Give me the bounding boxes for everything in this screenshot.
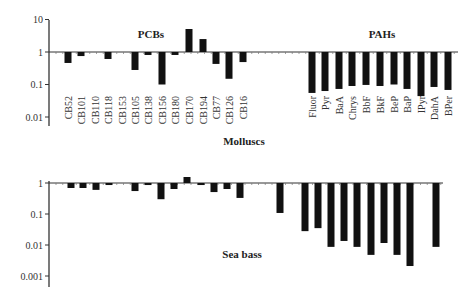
category-label: CB16 [238,96,249,119]
category-label: BbF [361,96,372,114]
bar-cb170 [184,177,191,183]
category-label: CB101 [76,96,87,124]
category-label: CB126 [224,96,235,124]
bar-chrys [349,52,356,86]
bar-bbf [363,52,370,85]
bar-ipyr [418,52,425,96]
category-label: CB194 [198,96,209,124]
category-label: Fluor [307,95,318,117]
bar-cb194 [200,39,207,52]
category-label: CB110 [90,96,101,124]
bar-bap [404,52,411,89]
bar-cb170 [186,29,193,52]
bar-pyr [322,52,329,91]
y-tick-label: 1 [38,47,43,58]
bar-fluor [277,183,284,213]
chart-figure: 1010.10.01CB52CB101CB110CB118CB153CB105C… [0,0,473,293]
y-tick-label: 0.001 [21,271,44,282]
bar-cb156 [159,52,166,85]
category-label: CB156 [157,96,168,124]
y-tick-label: 0.01 [26,112,44,123]
bar-cb16 [237,183,244,198]
category-label: BaP [402,96,413,113]
category-label: CB170 [184,96,195,124]
category-label: IPyr [416,95,427,113]
bar-cb16 [240,52,247,62]
bar-bper [445,52,452,90]
bar-cb118 [106,183,113,185]
bar-cb101 [80,183,87,188]
category-label: Chrys [347,96,358,120]
bar-cb101 [78,52,85,56]
category-label: CB52 [63,96,74,119]
category-label: CB118 [103,96,114,124]
bar-bkf [354,183,361,247]
bar-baa [336,52,343,89]
category-label: BeP [389,96,400,113]
bar-cb77 [213,52,220,64]
y-tick-label: 0.01 [26,240,44,251]
bar-cb180 [171,183,178,189]
bar-cb194 [198,183,205,185]
category-label: Pyr [320,95,331,110]
category-label: BaA [334,95,345,114]
bar-fluor [309,52,316,93]
category-label: BPer [443,95,454,116]
pahs-group-label: PAHs [369,28,396,40]
bar-cb156 [158,183,165,199]
bar-bep [391,52,398,85]
category-label: DahA [429,95,440,120]
sea-bass-panel: 10.10.010.001 [21,177,444,287]
bar-daha [431,52,438,87]
bar-bkf [377,52,384,86]
y-tick-label: 10 [33,14,43,25]
bar-ipyr [394,183,401,255]
category-label: CB180 [170,96,181,124]
bar-bap [381,183,388,243]
bar-cb52 [65,52,72,63]
bar-chrys [328,183,335,247]
bar-cb126 [226,52,233,79]
chart-canvas: 1010.10.01CB52CB101CB110CB118CB153CB105C… [0,0,473,293]
bar-cb105 [132,52,139,70]
category-label: CB105 [130,96,141,124]
bar-cb138 [145,183,152,185]
bar-daha [407,183,414,266]
bar-baa [315,183,322,228]
category-label: CB138 [143,96,154,124]
bar-bbf [341,183,348,241]
bar-cb138 [145,52,152,55]
molluscs-title: Molluscs [223,135,265,147]
sea-bass-title: Sea bass [222,248,262,260]
bar-bper [433,183,440,247]
bar-cb52 [68,183,75,188]
bar-cb126 [224,183,231,189]
y-tick-label: 1 [38,178,43,189]
y-tick-label: 0.1 [31,79,44,90]
category-label: BkF [375,96,386,114]
bar-pyr [302,183,309,231]
category-label: CB77 [211,96,222,119]
bar-bep [368,183,375,255]
y-tick-label: 0.1 [31,209,44,220]
bar-cb77 [211,183,218,192]
bar-cb180 [172,52,179,55]
pcbs-group-label: PCBs [138,28,165,40]
bar-cb118 [105,52,112,59]
bar-cb105 [132,183,139,191]
bar-cb110 [93,183,100,190]
category-label: CB153 [117,96,128,124]
